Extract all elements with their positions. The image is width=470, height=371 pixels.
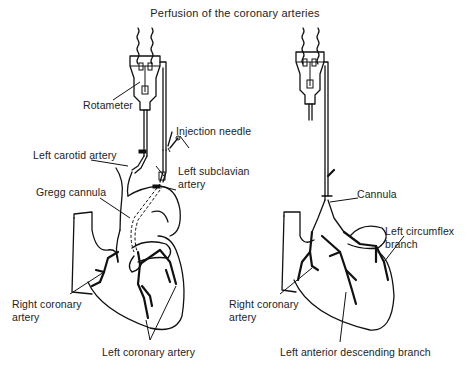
label-left-subclavian-line1: Left subclavian (178, 165, 250, 178)
coronary-perfusion-diagram: Perfusion of the coronary arteries (0, 0, 470, 371)
label-cannula: Cannula (357, 188, 397, 201)
label-left-anterior-descending: Left anterior descending branch (280, 346, 431, 359)
right-heart (282, 212, 394, 330)
label-right-coronary-line1-left: Right coronary (12, 298, 82, 311)
figure-title: Perfusion of the coronary arteries (0, 7, 470, 19)
label-left-subclavian-line2: artery (178, 178, 205, 191)
label-left-carotid-artery: Left carotid artery (33, 149, 117, 162)
label-right-coronary-line1-right: Right coronary (229, 298, 299, 311)
left-rotameter-apparatus (130, 28, 166, 156)
label-right-coronary-line2-right: artery (229, 311, 256, 324)
label-right-coronary-line2-left: artery (12, 311, 39, 324)
label-rotameter: Rotameter (83, 99, 133, 112)
label-gregg-cannula: Gregg cannula (36, 186, 106, 199)
label-injection-needle: Injection needle (176, 125, 251, 138)
label-left-circumflex-line1: Left circumflex (385, 225, 454, 238)
label-left-coronary-artery: Left coronary artery (102, 346, 195, 359)
right-rotameter-apparatus (296, 28, 328, 196)
left-tubing (132, 132, 180, 188)
label-left-circumflex-line2: branch (385, 238, 418, 251)
